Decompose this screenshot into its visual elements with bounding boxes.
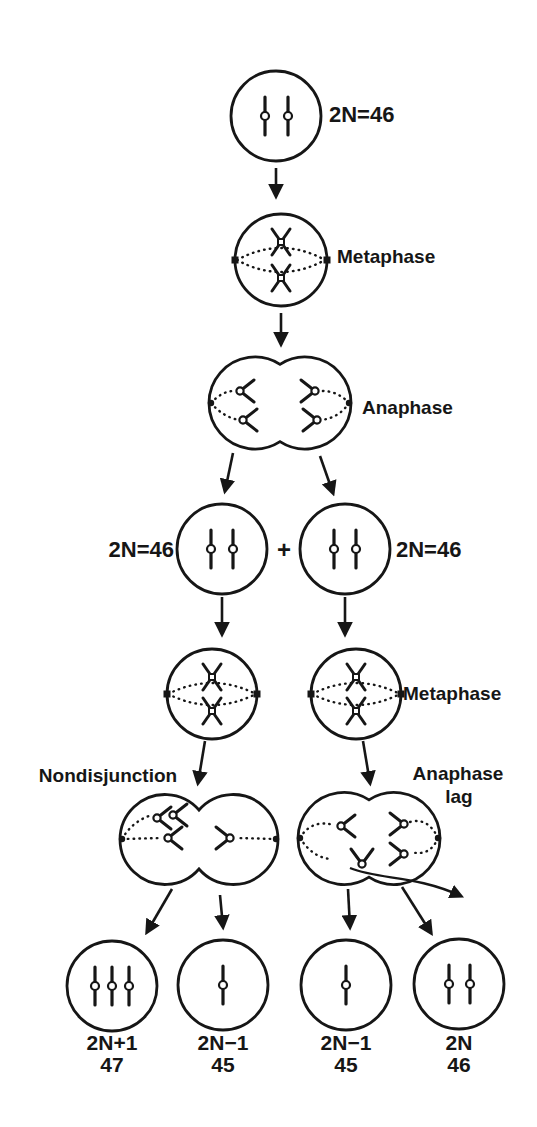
outcome-1-ploidy-label: 2N+1: [87, 1031, 138, 1054]
spindle-pole: [208, 400, 214, 406]
metaphase-1-cell: [232, 214, 331, 306]
arrow-to-outcome-4: [402, 887, 431, 933]
spindle-pole: [308, 691, 315, 698]
spindle-pole: [254, 691, 261, 698]
spindle-pole: [273, 836, 279, 842]
metaphase-2-cell-left: [164, 649, 261, 739]
daughter-cell-right: [300, 504, 390, 594]
spindle-pole: [119, 836, 125, 842]
outcome-3-ploidy-label: 2N−1: [321, 1031, 372, 1054]
daughter-right-ploidy-label: 2N=46: [396, 537, 461, 562]
outcome-4-count-label: 46: [447, 1053, 470, 1076]
arrow-anaphase-to-daughter-right: [320, 456, 333, 493]
arrow-to-anaphase-lag: [363, 741, 370, 783]
metaphase-2-label: Metaphase: [403, 683, 501, 704]
parent-cell: [231, 71, 321, 161]
arrow-anaphase-to-daughter-left: [225, 453, 233, 491]
outcome-cell-2: [178, 940, 268, 1030]
arrow-to-outcome-1: [147, 889, 172, 932]
nondisjunction-label: Nondisjunction: [39, 765, 177, 786]
mitosis-error-diagram: 2N=46 Metaphase Anaphase 2N=46 + 2N=46 M…: [0, 0, 537, 1127]
outcome-cell-1: [67, 941, 157, 1031]
spindle-pole: [435, 835, 441, 841]
outcome-1-count-label: 47: [100, 1053, 123, 1076]
nondisjunction-cell: [119, 795, 279, 885]
outcome-3-count-label: 45: [334, 1053, 358, 1076]
arrow-to-nondisjunction: [198, 741, 205, 783]
arrow-to-outcome-2: [220, 895, 223, 927]
plus-sign: +: [277, 536, 291, 563]
outcome-cell-4: [414, 939, 504, 1029]
diagram-canvas: 2N=46 Metaphase Anaphase 2N=46 + 2N=46 M…: [0, 0, 537, 1127]
metaphase-2-cell-right: [308, 649, 405, 739]
metaphase-1-label: Metaphase: [337, 246, 435, 267]
daughter-left-ploidy-label: 2N=46: [109, 537, 174, 562]
anaphase-1-label: Anaphase: [362, 397, 453, 418]
spindle-pole: [232, 257, 239, 264]
spindle-pole: [297, 835, 303, 841]
outcome-2-ploidy-label: 2N−1: [198, 1031, 249, 1054]
anaphase-lag-label-line1: Anaphase: [413, 763, 504, 784]
arrow-to-outcome-3: [348, 889, 350, 927]
anaphase-1-cell: [208, 357, 352, 449]
spindle-pole: [164, 691, 171, 698]
anaphase-lag-label-line2: lag: [445, 786, 472, 807]
daughter-cell-left: [177, 504, 267, 594]
outcome-2-count-label: 45: [211, 1053, 235, 1076]
spindle-pole: [324, 257, 331, 264]
spindle-pole: [346, 400, 352, 406]
parent-ploidy-label: 2N=46: [329, 102, 394, 127]
anaphase-lag-cell: [297, 792, 441, 884]
outcome-4-ploidy-label: 2N: [446, 1031, 473, 1054]
outcome-cell-3: [301, 940, 391, 1030]
